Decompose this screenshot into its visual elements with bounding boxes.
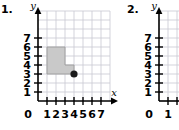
y-tick-1: 1 xyxy=(23,86,31,99)
x-tick-4: 4 xyxy=(70,108,78,121)
x-tick-1: 1 xyxy=(43,108,51,121)
problem-1-panel: 1. xyxy=(0,0,120,130)
x-axis xyxy=(159,97,179,105)
x-tick-7: 7 xyxy=(97,108,105,121)
x-tick-2: 2 xyxy=(52,108,60,121)
y-axis-label: y xyxy=(150,0,157,11)
y-axis xyxy=(34,7,42,101)
origin-label: 0 xyxy=(24,108,32,121)
problem-1-coordinate-plane: y x 7 6 5 4 3 2 1 0 1 2 3 4 5 6 7 xyxy=(0,0,120,130)
x-tick-1: 1 xyxy=(164,108,172,121)
problem-2-coordinate-plane: y 7 6 5 4 3 2 1 0 1 xyxy=(127,0,179,130)
x-axis-label: x xyxy=(111,87,117,98)
worksheet-page: 1. xyxy=(0,0,179,130)
l-shaped-figure xyxy=(47,47,74,74)
x-tick-6: 6 xyxy=(88,108,96,121)
plotted-point xyxy=(70,70,77,77)
y-axis xyxy=(155,7,163,101)
y-axis-label: y xyxy=(29,0,36,11)
x-tick-3: 3 xyxy=(61,108,69,121)
y-tick-1: 1 xyxy=(144,86,152,99)
origin-label: 0 xyxy=(145,108,153,121)
x-tick-5: 5 xyxy=(79,108,87,121)
x-axis xyxy=(38,97,118,105)
problem-2-panel: 2. xyxy=(127,0,179,130)
